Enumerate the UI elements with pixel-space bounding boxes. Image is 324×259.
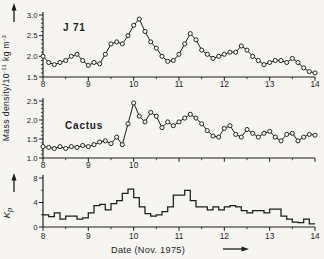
data-point <box>262 131 266 135</box>
data-point <box>194 116 198 120</box>
data-point <box>194 38 198 42</box>
data-point <box>222 126 226 130</box>
x-axis-j71: 891011121314 <box>41 77 320 89</box>
kp-label: Kp <box>1 208 14 219</box>
data-point <box>120 42 124 46</box>
data-point <box>69 54 73 58</box>
y-tick-label: 3.0 <box>27 11 39 20</box>
data-point <box>160 126 164 130</box>
data-point <box>251 54 255 58</box>
data-point <box>234 50 238 54</box>
x-axis-label: Date (Nov. 1975) <box>111 245 249 255</box>
data-point <box>103 139 107 143</box>
data-point <box>200 48 204 52</box>
data-point <box>285 60 289 64</box>
y-tick-label: 1.5 <box>27 135 39 144</box>
data-point <box>205 52 209 56</box>
data-point <box>81 143 85 147</box>
x-tick-label: 8 <box>41 160 46 170</box>
data-point <box>143 120 147 124</box>
y-tick-label: 4 <box>33 198 38 207</box>
data-point <box>47 60 51 64</box>
data-point <box>52 146 56 150</box>
x-tick-label: 13 <box>265 231 275 241</box>
data-point <box>160 54 164 58</box>
data-point <box>166 59 170 63</box>
data-point <box>290 131 294 135</box>
data-point <box>41 145 45 149</box>
data-point <box>166 120 170 124</box>
data-point <box>307 132 311 136</box>
data-point <box>245 127 249 131</box>
axes-kp <box>43 175 315 227</box>
panel-kp: 048891011121314 <box>33 174 320 241</box>
data-point <box>92 143 96 147</box>
x-tick-label: 9 <box>86 231 91 241</box>
data-point <box>126 34 130 38</box>
data-point <box>47 145 51 149</box>
data-point <box>75 145 79 149</box>
data-point <box>64 146 68 150</box>
data-point <box>64 58 68 62</box>
data-point <box>307 70 311 74</box>
data-point <box>228 50 232 54</box>
data-point <box>302 66 306 70</box>
x-tick-label: 12 <box>220 231 230 241</box>
data-point <box>251 131 255 135</box>
data-point <box>228 124 232 128</box>
y-tick-label: 2.5 <box>27 31 39 40</box>
y-tick-label: 2.0 <box>27 52 39 61</box>
x-tick-label: 14 <box>310 79 320 89</box>
data-point <box>126 122 130 126</box>
x-tick-label: 10 <box>129 231 139 241</box>
data-point <box>149 110 153 114</box>
y-axis-j71: 1.52.02.53.0 <box>27 11 43 82</box>
data-point <box>217 135 221 139</box>
y-tick-label: 2.0 <box>27 116 39 125</box>
x-tick-label: 11 <box>175 231 184 241</box>
data-point <box>256 58 260 62</box>
data-point <box>296 60 300 64</box>
x-axis-cactus: 8910 <box>41 158 315 170</box>
y-axis-cactus: 1.01.52.02.5 <box>27 97 43 163</box>
x-tick-label: 8 <box>41 79 46 89</box>
y-tick-label: 1.0 <box>27 154 39 163</box>
y-axis-label: Mass density/10-11 kg m-3 <box>1 3 17 141</box>
x-tick-label: 9 <box>86 160 91 170</box>
data-point <box>171 58 175 62</box>
data-point <box>313 133 317 137</box>
x-tick-label: 10 <box>129 79 139 89</box>
panel-cactus: 1.01.52.02.58910Cactus <box>27 97 317 170</box>
data-point <box>154 114 158 118</box>
data-point <box>183 42 187 46</box>
data-point <box>177 120 181 124</box>
data-point <box>188 32 192 36</box>
data-point <box>41 54 45 58</box>
y-tick-label: 1.5 <box>27 73 39 82</box>
data-point <box>86 145 90 149</box>
data-point <box>58 60 62 64</box>
data-point <box>234 132 238 136</box>
data-point <box>279 139 283 143</box>
data-point <box>103 52 107 56</box>
x-tick-label: 12 <box>220 79 230 89</box>
data-point <box>313 71 317 75</box>
data-point <box>137 17 141 21</box>
data-point <box>222 52 226 56</box>
panel-title-j71: J 71 <box>63 22 86 33</box>
data-point <box>211 134 215 138</box>
data-point <box>302 135 306 139</box>
data-point <box>273 135 277 139</box>
x-axis-kp: 891011121314 <box>41 227 320 241</box>
kp-step-series <box>43 189 315 224</box>
data-point <box>69 145 73 149</box>
data-point <box>52 63 56 67</box>
data-point <box>120 143 124 147</box>
data-point <box>143 29 147 33</box>
figure-mass-density-kp: 1.52.02.53.0891011121314J 711.01.52.02.5… <box>0 0 324 259</box>
kp-up-arrow-head-icon <box>12 173 17 181</box>
date-label: Date (Nov. 1975) <box>111 245 185 255</box>
data-point <box>296 139 300 143</box>
data-point <box>154 46 158 50</box>
panel-title-cactus: Cactus <box>65 120 103 131</box>
